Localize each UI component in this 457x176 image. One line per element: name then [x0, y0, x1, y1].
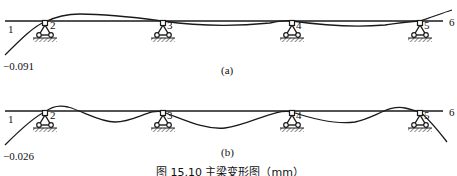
node-label-a-3: 3 — [167, 20, 173, 31]
node-label-a-2: 2 — [50, 20, 56, 31]
node-label-b-4: 4 — [296, 110, 302, 121]
node-label-a-1: 1 — [8, 24, 14, 35]
node-label-b-3: 3 — [167, 110, 173, 121]
node-label-b-6: 6 — [449, 107, 455, 118]
node-label-a-5: 5 — [424, 20, 430, 31]
panel-label-b: (b) — [221, 147, 234, 158]
node-label-a-6: 6 — [449, 17, 455, 28]
panel-label-a: (a) — [221, 65, 233, 76]
node-label-b-1: 1 — [8, 114, 14, 125]
node-label-b-2: 2 — [50, 110, 56, 121]
deformed-curve-a — [5, 10, 452, 55]
end-value-a: −0.091 — [3, 61, 34, 72]
end-value-b: −0.026 — [3, 151, 34, 162]
panel-b — [5, 106, 447, 145]
deformed-curve-b — [5, 106, 447, 145]
node-label-b-5: 5 — [424, 110, 430, 121]
figure-caption: 图 15.10 主梁变形图（mm） — [156, 167, 304, 176]
node-label-a-4: 4 — [296, 20, 302, 31]
panel-a — [5, 10, 452, 55]
